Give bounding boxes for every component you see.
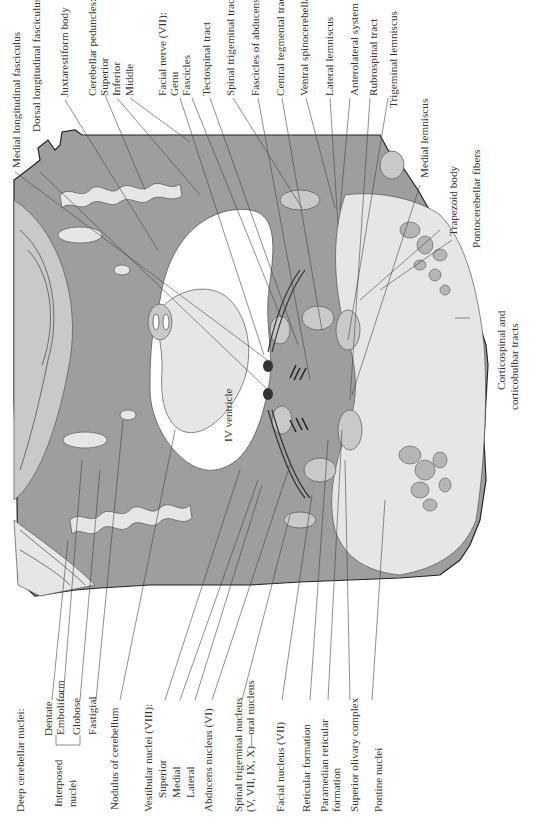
label-paramedian-formation: formation (330, 767, 342, 812)
label-dorsal-longitudinal-fasciculus: Dorsal longitudinal fasciculus (30, 0, 42, 132)
label-anterolateral-system: Anterolateral system (348, 3, 360, 96)
label-reticular-formation: Reticular formation (300, 724, 312, 812)
label-corticospinal: Corticospinal and (495, 310, 507, 390)
medial-longitudinal-fasciculus (263, 360, 273, 372)
label-genu: Genu (168, 71, 180, 96)
label-trapezoid-body: Trapezoid body (447, 165, 459, 236)
label-superior-peduncle: Superior (98, 57, 110, 96)
label-abducens-nucleus: Abducens nucleus (VI) (202, 708, 215, 812)
interposed-bracket (56, 735, 80, 745)
label-lateral-lemniscus: Lateral lemniscus (323, 17, 335, 96)
label-spinal-trigeminal-oral: (V, VII, IX, X)—oral nucleus (244, 680, 257, 812)
label-pontocerebellar-fibers: Pontocerebellar fibers (470, 150, 482, 248)
label-facial-nucleus: Facial nucleus (VII) (274, 722, 287, 812)
label-vestibular-lateral: Lateral (184, 766, 196, 798)
globose-nucleus-lower (120, 410, 136, 420)
label-trigeminal-lemniscus: Trigeminal lemniscus (387, 11, 399, 108)
label-vestibular-superior: Superior (156, 759, 168, 798)
label-medial-lemniscus: Medial lemniscus (418, 99, 430, 178)
label-globose: Globose (70, 698, 82, 735)
label-fascicles: Fascicles (180, 55, 192, 96)
label-deep-cerebellar-nuclei: Deep cerebellar nuclei: (14, 708, 26, 812)
emboliform-nucleus-lower (63, 432, 107, 448)
label-vestibular-nuclei: Vestibular nuclei (VIII): (142, 704, 155, 812)
globose-nucleus (114, 265, 130, 275)
pons-cross-section-diagram: IV ventricle (0, 0, 536, 832)
label-fastigial: Fastigial (86, 696, 98, 735)
label-vestibular-medial: Medial (170, 766, 182, 798)
label-rubrospinal-tract: Rubrospinal tract (367, 18, 379, 96)
label-nodulus-of-cerebellum: Nodulus of cerebellum (108, 707, 120, 810)
label-cerebellar-peduncles: Cerebellar peduncles: (86, 0, 98, 96)
label-dentate: Dentate (42, 701, 54, 736)
label-pontine-nuclei: Pontine nuclei (372, 748, 384, 812)
label-spinal-trigeminal-tract: Spinal trigeminal tract (V, VII, IX) (224, 0, 237, 96)
label-fascicles-abducens: Fascicles of abducens nerve (VI) (249, 0, 262, 96)
label-ventral-spinocerebellar-tract: Ventral spinocerebellar tract (298, 0, 310, 96)
label-middle-peduncle: Middle (123, 64, 135, 96)
label-juxtarestiform-body: Juxtarestiform body (58, 7, 70, 97)
label-paramedian-reticular: Paramedian reticular (318, 719, 330, 812)
label-nuclei: nuclei (66, 780, 78, 807)
iv-ventricle-label: IV ventricle (222, 388, 234, 442)
label-emboliform: Emboliform (54, 680, 66, 735)
label-medial-longitudinal-fasciculus: Medial longitudinal fasciculus (10, 32, 22, 168)
label-superior-olivary-complex: Superior olivary complex (348, 697, 360, 812)
label-tectospinal-tract: Tectospinal tract (200, 21, 212, 96)
label-interposed: Interposed (52, 759, 64, 807)
label-corticobulbar: corticobulbar tracts (508, 323, 520, 410)
label-central-tegmental-tract: Central tegmental tract (274, 0, 286, 96)
label-spinal-trigeminal-nucleus: Spinal trigeminal nucleus (232, 698, 244, 812)
label-inferior-peduncle: Inferior (110, 62, 122, 96)
emboliform-nucleus (58, 227, 102, 243)
